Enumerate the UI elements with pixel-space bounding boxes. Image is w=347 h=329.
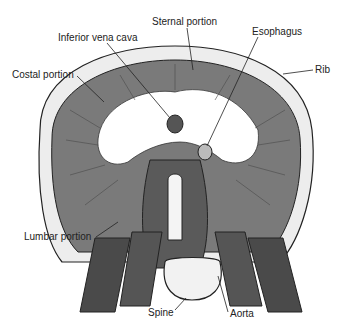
label-costal-portion: Costal portion <box>12 69 74 80</box>
spine-vertebra <box>164 258 221 301</box>
label-aorta: Aorta <box>230 308 254 319</box>
aortic-hiatus <box>168 174 182 240</box>
label-rib: Rib <box>315 64 330 75</box>
label-esophagus: Esophagus <box>252 26 302 37</box>
label-spine: Spine <box>148 307 174 318</box>
label-sternal-portion: Sternal portion <box>152 16 217 27</box>
label-inferior-vena-cava: Inferior vena cava <box>58 32 138 43</box>
label-lumbar-portion: Lumbar portion <box>24 231 91 242</box>
diaphragm-diagram: Sternal portion Inferior vena cava Esoph… <box>0 0 347 329</box>
esophagus-opening <box>198 144 212 160</box>
